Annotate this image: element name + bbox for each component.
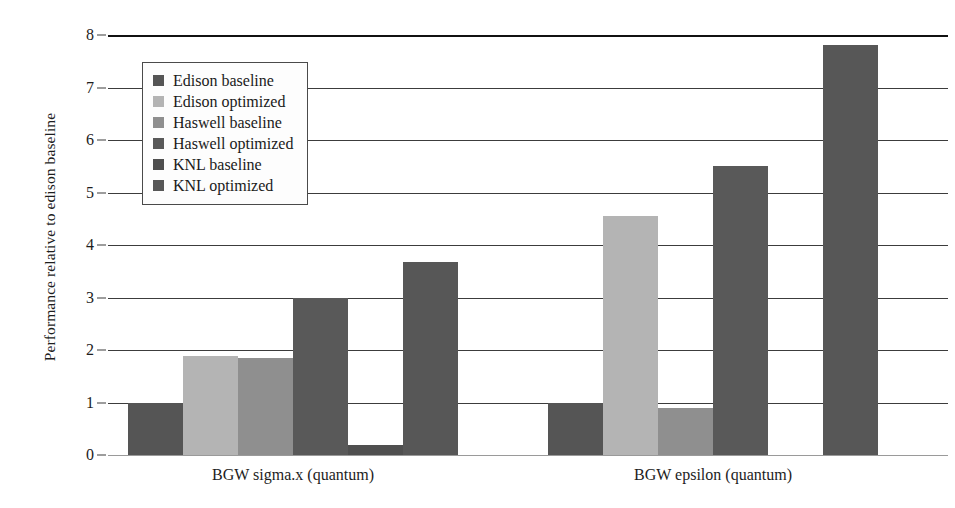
gridline-2 [108, 350, 948, 351]
y-tick-mark-0 [97, 455, 106, 456]
chart-legend: Edison baselineEdison optimizedHaswell b… [142, 62, 308, 205]
bar-edison-baseline-group-1 [128, 403, 183, 456]
legend-item-label: Haswell baseline [173, 115, 282, 131]
y-tick-label-7: 7 [86, 80, 94, 96]
y-tick-label-5: 5 [86, 185, 94, 201]
legend-swatch-icon [153, 96, 164, 107]
legend-item-label: KNL optimized [173, 178, 273, 194]
y-tick-mark-8 [97, 35, 106, 36]
bar-haswell-optimized-group-2 [713, 166, 768, 455]
y-tick-label-1: 1 [86, 395, 94, 411]
bar-chart-figure: Performance relative to edison baseline … [0, 0, 955, 508]
bar-haswell-optimized-group-1 [293, 298, 348, 456]
legend-item-label: Edison optimized [173, 94, 285, 110]
legend-swatch-icon [153, 159, 164, 170]
legend-swatch-icon [153, 138, 164, 149]
y-tick-mark-1 [97, 402, 106, 403]
legend-item-knl-baseline: KNL baseline [153, 154, 293, 175]
gridline-4 [108, 245, 948, 246]
x-axis-group-label-2: BGW epsilon (quantum) [548, 466, 878, 484]
y-tick-mark-2 [97, 350, 106, 351]
y-tick-mark-6 [97, 140, 106, 141]
legend-item-label: Haswell optimized [173, 136, 293, 152]
legend-item-knl-optimized: KNL optimized [153, 175, 293, 196]
bar-haswell-baseline-group-2 [658, 408, 713, 455]
y-tick-mark-7 [97, 87, 106, 88]
legend-swatch-icon [153, 75, 164, 86]
bar-edison-optimized-group-1 [183, 356, 238, 455]
y-tick-label-0: 0 [86, 447, 94, 463]
x-axis-group-label-1: BGW sigma.x (quantum) [128, 466, 458, 484]
bar-knl-optimized-group-2 [823, 45, 878, 455]
y-tick-label-3: 3 [86, 290, 94, 306]
bar-edison-optimized-group-2 [603, 216, 658, 455]
y-tick-mark-5 [97, 192, 106, 193]
legend-item-edison-optimized: Edison optimized [153, 91, 293, 112]
y-tick-label-6: 6 [86, 132, 94, 148]
gridline-3 [108, 298, 948, 299]
bar-knl-optimized-group-1 [403, 262, 458, 455]
legend-item-label: KNL baseline [173, 157, 262, 173]
bar-knl-baseline-group-1 [348, 445, 403, 456]
gridline-8 [108, 35, 948, 37]
y-axis-title: Performance relative to edison baseline [41, 37, 59, 437]
bar-haswell-baseline-group-1 [238, 358, 293, 455]
y-tick-mark-3 [97, 297, 106, 298]
bar-edison-baseline-group-2 [548, 403, 603, 456]
legend-swatch-icon [153, 117, 164, 128]
legend-item-haswell-baseline: Haswell baseline [153, 112, 293, 133]
legend-item-edison-baseline: Edison baseline [153, 70, 293, 91]
legend-item-label: Edison baseline [173, 73, 274, 89]
gridline-0 [108, 455, 948, 456]
y-tick-label-8: 8 [86, 27, 94, 43]
y-tick-mark-4 [97, 245, 106, 246]
legend-item-haswell-optimized: Haswell optimized [153, 133, 293, 154]
legend-swatch-icon [153, 180, 164, 191]
y-tick-label-4: 4 [86, 237, 94, 253]
y-tick-label-2: 2 [86, 342, 94, 358]
